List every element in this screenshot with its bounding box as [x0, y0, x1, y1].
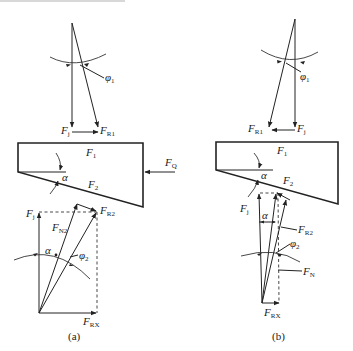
- phi1-leader-a: [80, 65, 104, 78]
- label-alpha-lower-a: α: [45, 244, 51, 256]
- label-phi1-a: φ1: [105, 71, 115, 85]
- wedge-block-a: [18, 143, 143, 207]
- label-frx-a: FRX: [82, 315, 99, 329]
- caption-b: (b): [272, 330, 285, 343]
- arc-arrow-icon: [277, 60, 282, 64]
- label-fn-b: FN: [302, 265, 315, 279]
- label-fj-top-b: Fj: [296, 122, 306, 136]
- arc-arrow-icon: [84, 63, 89, 67]
- fr1-vector-a: [72, 23, 98, 127]
- label-f1-a: F1: [85, 146, 97, 160]
- label-fr2-b: FR2: [297, 223, 313, 237]
- arc-arrow-icon: [257, 253, 262, 256]
- arc-arrow-icon: [300, 61, 305, 65]
- label-fr2-a: FR2: [99, 204, 115, 218]
- label-fq-a: FQ: [164, 156, 177, 170]
- alpha-arc-lower-b: [248, 180, 258, 197]
- top-force-triangle-a: [50, 23, 106, 132]
- top-force-triangle-b: [261, 19, 318, 130]
- fn-leader-b: [278, 270, 302, 271]
- panel-b: φ1 FR1 Fj F1 α F2 Fj: [216, 19, 338, 343]
- label-fj-bottom-a: Fj: [25, 207, 35, 221]
- caption-a: (a): [68, 330, 81, 343]
- arc-arrow-icon: [272, 221, 276, 224]
- label-f2-b: F2: [282, 174, 294, 188]
- dashed-vertical-b: [278, 193, 279, 303]
- phi2-arc-b: [241, 252, 300, 262]
- cropped-header-text: [0, 0, 125, 2]
- alpha-arc-lower-a: [50, 181, 58, 194]
- force-diagram: φ1 Fj FR1 F1 FQ α F2 Fj FN2 FR2: [0, 0, 353, 351]
- arc-arrow-icon: [66, 64, 71, 67]
- fr2-vector-a: [39, 213, 96, 313]
- label-alpha-lower-b: α: [262, 209, 268, 221]
- label-f2-a: F2: [87, 178, 99, 192]
- label-frx-b: FRX: [263, 306, 280, 320]
- phi1-arc-b: [261, 50, 318, 60]
- label-fr1-b: FR1: [247, 122, 263, 136]
- arc-arrow-icon: [277, 254, 282, 257]
- friction-arrow-a: [77, 204, 96, 211]
- label-alpha-block-a: α: [62, 171, 68, 183]
- intersection-dot: [55, 254, 58, 257]
- label-alpha-block-b: α: [261, 169, 267, 181]
- label-phi2-b: φ2: [290, 237, 300, 251]
- alpha-arc-upper-a: [56, 153, 61, 170]
- friction-arrow-b: [277, 193, 290, 200]
- label-f1-b: F1: [276, 144, 288, 158]
- fr2-leader-b: [281, 227, 297, 230]
- phi1-arc-a: [50, 54, 106, 63]
- label-fj-top-a: Fj: [60, 124, 70, 138]
- label-fj-bottom-b: Fj: [239, 202, 249, 216]
- label-phi1-b: φ1: [300, 70, 310, 84]
- phi1-leader-b: [286, 63, 301, 72]
- panel-a: φ1 Fj FR1 F1 FQ α F2 Fj FN2 FR2: [14, 23, 177, 343]
- label-fn2-a: FN2: [51, 221, 68, 235]
- alpha-arc-upper-b: [254, 153, 259, 168]
- fr1-vector-b: [269, 19, 295, 127]
- label-fr1-a: FR1: [99, 124, 115, 138]
- label-phi2-a: φ2: [79, 249, 89, 263]
